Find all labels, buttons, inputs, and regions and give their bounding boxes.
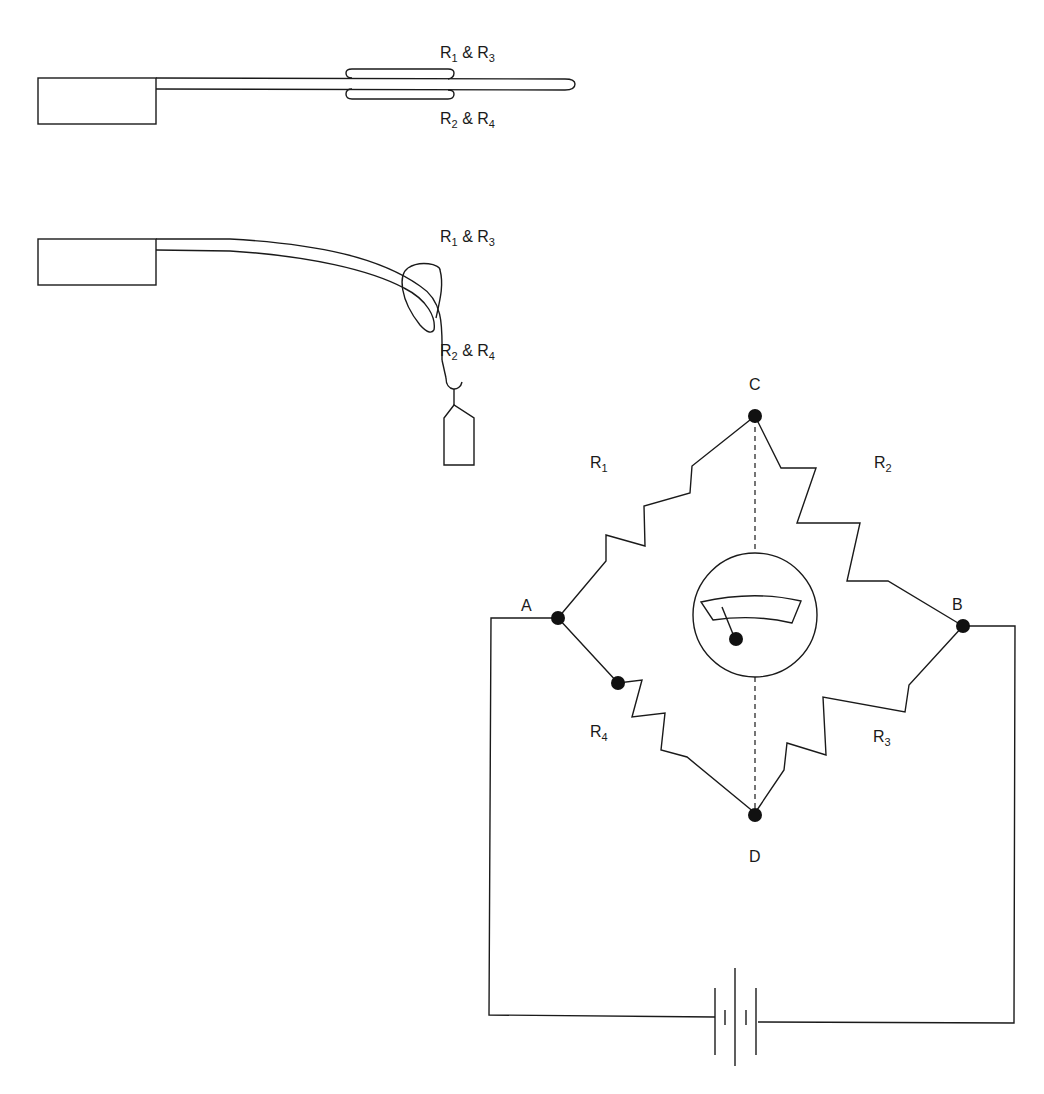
hanger-wire [442,360,446,378]
label-node-b: B [952,596,963,613]
loaded-top-label: R1 & R3 [440,228,495,248]
hook [446,378,462,389]
beam-bottom-edge [156,250,434,330]
galvanometer-icon [693,553,817,677]
label-r3: R3 [873,728,891,748]
gauge-top-loaded [408,264,442,318]
strain-gauge-diagram: R1 & R3 R2 & R4 R1 & R3 R2 & R4 [0,0,1044,1094]
node-b [956,619,970,633]
wire-left [489,618,715,1017]
resistor-r3 [755,626,963,813]
unloaded-top-label: R1 & R3 [440,44,495,64]
weight [444,405,474,465]
label-node-c: C [749,376,761,393]
loaded-bottom-label: R2 & R4 [440,342,495,362]
wheatstone-bridge [489,409,1015,1066]
resistor-r1 [558,416,755,618]
node-d [748,808,762,822]
loaded-beam [38,239,474,465]
label-r2: R2 [874,454,892,474]
label-r1: R1 [590,454,608,474]
wire-right [758,626,1015,1023]
label-node-d: D [749,848,761,865]
resistor-r4 [558,618,755,813]
node-r4-junction [611,676,625,690]
node-a [551,611,565,625]
label-r4: R4 [590,723,608,743]
label-node-a: A [521,597,532,614]
unloaded-beam [38,69,575,124]
cantilever-beam [156,78,575,90]
fixed-support [38,239,156,285]
gauge-top [346,69,454,79]
unloaded-bottom-label: R2 & R4 [440,110,495,130]
fixed-support [38,78,156,124]
battery-icon [715,968,756,1066]
beam-top-edge [156,239,442,360]
node-c [748,409,762,423]
resistor-r2 [755,416,963,626]
gauge-bottom [346,89,454,99]
